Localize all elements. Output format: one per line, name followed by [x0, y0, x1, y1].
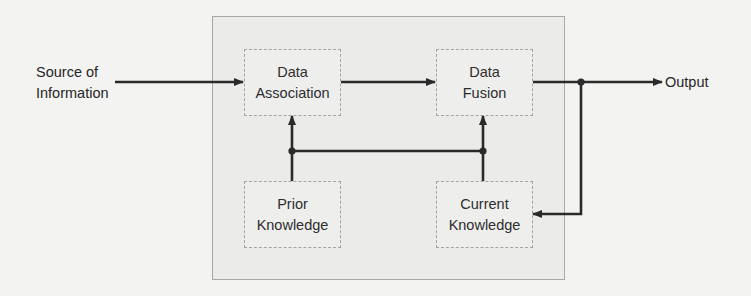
junction-dot-current	[479, 147, 486, 154]
fusion-diagram: Data Association Data Fusion Prior Knowl…	[0, 0, 751, 296]
arrow-feedback-to-current-knowledge	[533, 82, 581, 214]
junction-dot-prior	[288, 147, 295, 154]
junction-dot-output	[577, 78, 584, 85]
connector-lines	[0, 0, 751, 296]
